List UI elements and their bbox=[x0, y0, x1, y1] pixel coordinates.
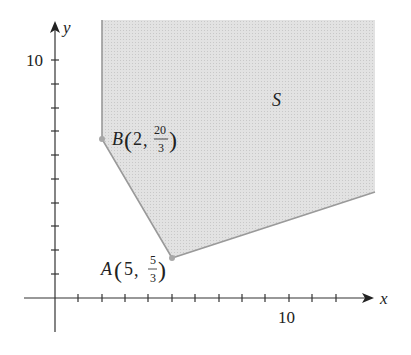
svg-text:): ) bbox=[158, 257, 166, 283]
svg-text:,: , bbox=[134, 260, 139, 280]
y-tick-label-10: 10 bbox=[26, 51, 43, 70]
diagram-canvas: x y 10 10 S B ( 2 , 20 3 ) A ( 5 , 5 3 ) bbox=[0, 0, 411, 355]
y-axis bbox=[51, 30, 59, 332]
x-axis-label: x bbox=[379, 289, 388, 308]
svg-text:): ) bbox=[169, 127, 177, 153]
x-axis bbox=[24, 294, 368, 302]
svg-text:5: 5 bbox=[124, 259, 133, 279]
svg-text:3: 3 bbox=[150, 271, 156, 285]
svg-text:20: 20 bbox=[154, 123, 166, 137]
svg-text:,: , bbox=[143, 130, 148, 150]
svg-text:A: A bbox=[100, 259, 113, 279]
region-label: S bbox=[272, 90, 281, 110]
svg-text:(: ( bbox=[114, 257, 122, 283]
svg-text:(: ( bbox=[124, 127, 132, 153]
svg-text:5: 5 bbox=[150, 253, 156, 267]
y-axis-label: y bbox=[61, 18, 71, 37]
point-b-marker bbox=[99, 136, 105, 142]
x-tick-label-10: 10 bbox=[278, 308, 295, 327]
point-a-marker bbox=[169, 255, 175, 261]
svg-text:2: 2 bbox=[133, 129, 142, 149]
svg-text:3: 3 bbox=[158, 141, 164, 155]
svg-text:B: B bbox=[112, 129, 123, 149]
point-a-label: A ( 5 , 5 3 ) bbox=[100, 253, 166, 285]
